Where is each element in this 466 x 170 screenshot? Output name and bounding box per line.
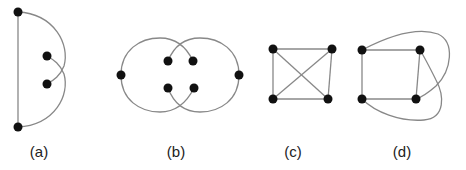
node — [358, 46, 367, 55]
node — [43, 52, 52, 61]
figure-c: (c) — [269, 45, 337, 161]
edge — [121, 75, 194, 112]
node — [117, 71, 126, 80]
node — [412, 95, 421, 104]
edge — [362, 31, 449, 99]
edge — [416, 50, 420, 99]
edge — [18, 56, 65, 127]
figure-b: (b) — [117, 38, 244, 160]
edge — [18, 12, 65, 84]
node — [14, 123, 23, 132]
figure-a: (a) — [14, 8, 66, 161]
node — [14, 8, 23, 17]
edge — [362, 50, 442, 120]
node — [358, 95, 367, 104]
node — [269, 95, 278, 104]
node — [190, 84, 199, 93]
node — [235, 71, 244, 80]
figure-label: (c) — [284, 143, 302, 160]
node — [164, 57, 173, 66]
node — [164, 84, 173, 93]
graph-figure: (a) (b) (c) — [0, 0, 466, 170]
node — [43, 80, 52, 89]
figure-label: (b) — [167, 143, 185, 160]
node — [189, 57, 198, 66]
figure-label: (a) — [30, 143, 48, 160]
node — [328, 45, 337, 54]
edge — [121, 38, 193, 75]
node — [269, 45, 278, 54]
node — [324, 95, 333, 104]
node — [416, 46, 425, 55]
edge — [328, 49, 332, 99]
figure-label: (d) — [393, 143, 411, 160]
figure-d: (d) — [358, 31, 450, 160]
